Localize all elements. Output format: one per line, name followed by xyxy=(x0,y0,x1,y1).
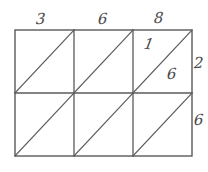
label-top-col1: 3 xyxy=(36,12,46,28)
label-top-col3: 8 xyxy=(154,11,164,27)
label-top-col2: 6 xyxy=(98,12,108,28)
diagonal-row2-col2 xyxy=(74,93,133,156)
diagonal-row1-col3 xyxy=(133,30,192,93)
label-inner-lower-right: 6 xyxy=(167,67,177,83)
label-right-row1: 2 xyxy=(194,56,204,72)
diagonal-row2-col3 xyxy=(133,93,192,156)
label-right-row2: 6 xyxy=(194,113,204,129)
diagonal-row1-col1 xyxy=(15,30,74,93)
diagram-canvas: 3 6 8 1 6 2 6 xyxy=(0,0,208,172)
diagonal-row2-col1 xyxy=(15,93,74,156)
grid-internal-lines xyxy=(15,30,192,156)
diagonal-row1-col2 xyxy=(74,30,133,93)
